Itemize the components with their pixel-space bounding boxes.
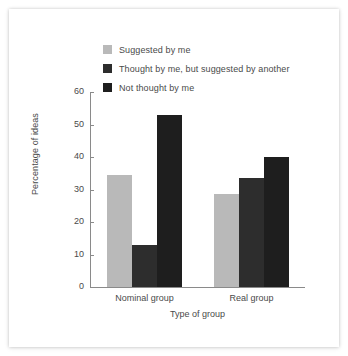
legend-item: Not thought by me (103, 79, 335, 96)
chart-legend: Suggested by meThought by me, but sugges… (103, 41, 335, 98)
bar (239, 178, 264, 287)
bars-layer (91, 92, 305, 287)
y-axis-tick-label: 30 (64, 184, 84, 194)
x-axis-title: Type of group (90, 309, 305, 319)
y-axis-tick-label: 10 (64, 249, 84, 259)
legend-item: Suggested by me (103, 41, 335, 58)
y-axis-tick-label: 50 (64, 119, 84, 129)
y-axis-tick-label: 40 (64, 151, 84, 161)
bar (132, 245, 157, 287)
x-axis-category-label: Nominal group (91, 293, 198, 303)
bar (107, 175, 132, 287)
x-axis-category-label: Real group (198, 293, 305, 303)
bar (264, 157, 289, 287)
legend-swatch-icon (103, 64, 112, 73)
y-axis-tick-mark (90, 287, 94, 288)
legend-swatch-icon (103, 45, 112, 54)
legend-swatch-icon (103, 83, 112, 92)
bar (157, 115, 182, 287)
legend-item-label: Suggested by me (119, 45, 191, 55)
y-axis-tick-label: 60 (64, 86, 84, 96)
x-axis-line (90, 287, 305, 288)
legend-item: Thought by me, but suggested by another (103, 60, 335, 77)
chart-card: Percentage of ideas 0102030405060 Nomina… (9, 9, 339, 347)
y-axis-tick-label: 0 (64, 281, 84, 291)
legend-item-label: Thought by me, but suggested by another (119, 64, 290, 74)
legend-item-label: Not thought by me (119, 83, 194, 93)
bar (214, 194, 239, 287)
y-axis-tick-label: 20 (64, 216, 84, 226)
y-axis-title: Percentage of ideas (30, 79, 40, 229)
